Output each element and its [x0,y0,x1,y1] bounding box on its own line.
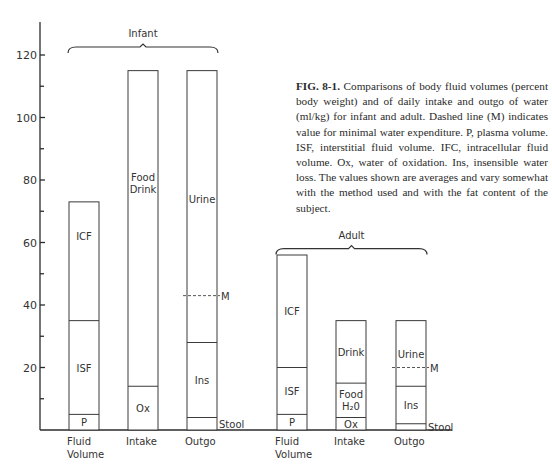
figure-caption: FIG. 8-1. Comparisons of body fluid volu… [296,79,548,216]
bar-outgo: StoolInsUrineMOutgo [183,71,244,447]
segment-label: Ins [404,400,419,411]
x-category-label: Outgo [185,436,216,447]
segment-label: Food [131,172,155,183]
group-brace [276,246,427,255]
segment-label: ISF [284,386,299,397]
bar-outline [336,321,366,430]
bar-outline [396,321,426,430]
x-category-label: Fluid [275,436,299,447]
group-infant: InfantPISFICFFluidVolumeOxFoodDrinkIntak… [67,28,244,460]
x-category-label: Intake [334,436,365,447]
group-brace [68,44,218,53]
segment-label: Urine [398,349,425,360]
segment-label: ICF [76,231,92,242]
marker-label: M [430,363,439,374]
bar-intake: OxFoodDrinkIntake [126,71,158,447]
group-label: Adult [338,230,364,241]
figure-label: FIG. 8-1. [296,80,340,92]
bar-fluid-volume: PISFICFFluidVolume [275,255,312,460]
y-tick-label: 60 [23,237,37,250]
segment-label: Food [339,389,363,400]
segment-label: Ox [344,419,358,430]
segment-label: Stool [428,422,453,433]
segment-label: Ox [136,403,150,414]
segment-label: H₂0 [342,401,360,412]
bar-outline [277,255,307,430]
fluid-volume-chart: 20406080100120 InfantPISFICFFluidVolumeO… [0,0,552,475]
y-tick-label: 100 [16,112,37,125]
segment-label: Drink [130,184,157,195]
x-category-label: Fluid [67,436,91,447]
y-tick-label: 80 [23,174,37,187]
bar-outline [128,71,158,430]
marker-label: M [221,291,230,302]
x-category-label: Volume [67,449,104,460]
segment-label: Urine [189,194,216,205]
segment-label: ICF [284,306,300,317]
x-category-label: Outgo [394,436,425,447]
x-category-label: Intake [126,436,157,447]
bar-outgo: StoolInsUrineMOutgo [392,321,453,447]
segment-label: P [81,417,87,428]
segment-label: Ins [195,375,210,386]
y-tick-label: 40 [23,299,37,312]
x-category-label: Volume [275,449,312,460]
y-tick-label: 120 [16,49,37,62]
caption-text: Comparisons of body fluid volumes (perce… [296,80,548,214]
group-adult: AdultPISFICFFluidVolumeOxFoodH₂0DrinkInt… [275,230,453,460]
group-label: Infant [128,28,157,39]
bar-intake: OxFoodH₂0DrinkIntake [334,321,366,447]
y-tick-label: 20 [23,362,37,375]
segment-label: Stool [219,419,244,430]
segment-label: Drink [338,347,365,358]
bar-fluid-volume: PISFICFFluidVolume [67,202,104,460]
segment-label: ISF [76,363,91,374]
segment-label: P [289,417,295,428]
